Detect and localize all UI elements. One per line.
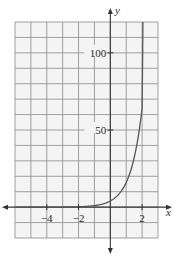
- y-tick-label: 50: [95, 124, 107, 136]
- exponential-graph: −4−2250100 x y: [0, 0, 179, 264]
- x-tick-label: −4: [41, 212, 53, 224]
- x-axis-label: x: [165, 206, 171, 218]
- y-axis-down-arrow-icon: [108, 248, 113, 254]
- y-axis-label: y: [114, 4, 120, 16]
- x-axis-left-arrow-icon: [2, 205, 8, 210]
- x-tick-label: 2: [139, 212, 145, 224]
- y-axis-up-arrow-icon: [108, 8, 113, 14]
- x-tick-label: −2: [73, 212, 85, 224]
- y-tick-label: 100: [90, 47, 107, 59]
